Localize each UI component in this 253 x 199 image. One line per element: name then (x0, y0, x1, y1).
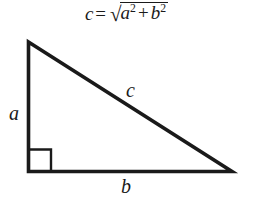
triangle-outline (29, 42, 233, 172)
label-leg-b: b (121, 176, 131, 196)
diagram-canvas: c=√a2+b2 a b c (0, 0, 253, 199)
right-angle-marker-icon (29, 150, 51, 172)
label-hypotenuse-c: c (126, 80, 135, 100)
label-leg-a: a (9, 103, 19, 123)
